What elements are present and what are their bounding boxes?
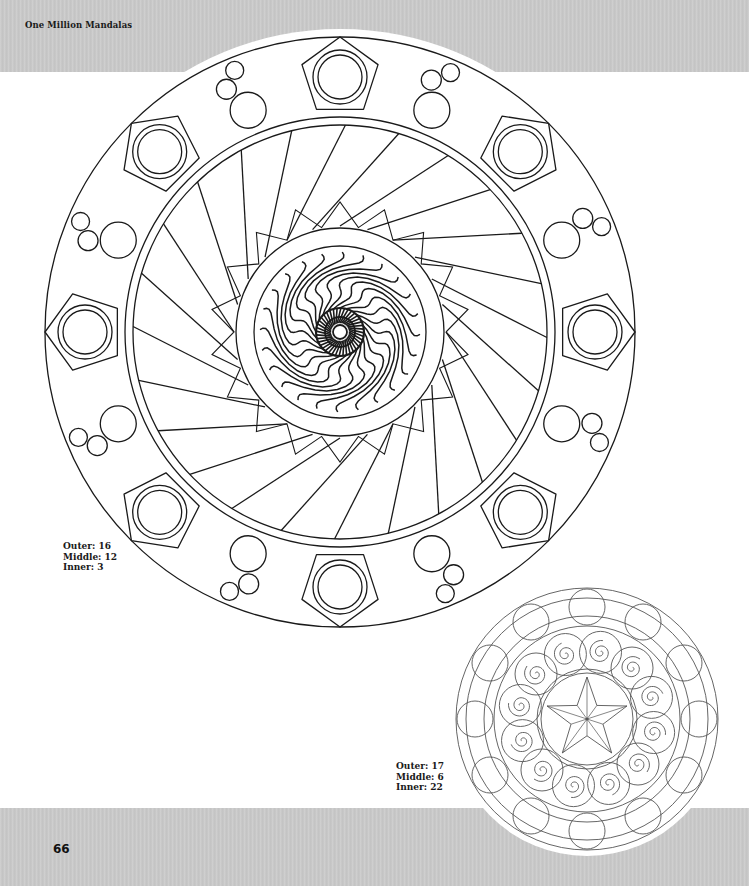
caption-inner: Inner: 3 [63, 562, 117, 573]
caption-middle: Middle: 6 [396, 772, 444, 783]
small-mandala [450, 582, 724, 856]
small-mandala-caption: Outer: 17 Middle: 6 Inner: 22 [396, 761, 444, 793]
large-mandala-caption: Outer: 16 Middle: 12 Inner: 3 [63, 541, 117, 573]
caption-outer: Outer: 17 [396, 761, 444, 772]
caption-middle: Middle: 12 [63, 552, 117, 563]
mandala-artwork [0, 0, 749, 886]
running-head: One Million Mandalas [25, 20, 132, 30]
caption-outer: Outer: 16 [63, 541, 117, 552]
coloring-book-page: One Million Mandalas Outer: 16 Middle: 1… [0, 0, 749, 886]
large-mandala [37, 29, 643, 635]
caption-inner: Inner: 22 [396, 782, 444, 793]
page-number: 66 [53, 842, 70, 856]
